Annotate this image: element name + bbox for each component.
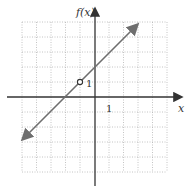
y-axis-label: f(x)	[75, 6, 95, 19]
function-line	[80, 25, 137, 82]
function-line-lower	[23, 82, 80, 139]
x-axis-label: x	[178, 102, 185, 115]
y-tick-label: 1	[86, 78, 92, 89]
x-tick-label: 1	[106, 103, 112, 114]
function-graph: f(x) x 1 1	[0, 0, 190, 190]
open-point	[77, 79, 82, 84]
